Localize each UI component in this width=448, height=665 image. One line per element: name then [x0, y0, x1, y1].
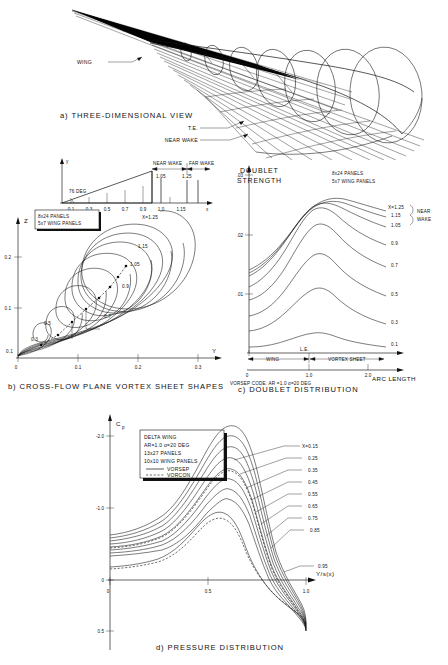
panel-b-caption: b) CROSS-FLOW PLANE VORTEX SHEET SHAPES: [8, 382, 224, 391]
panel-d-legend: DELTA WING AR=1.0 α=20 DEG 13x27 PANELS …: [140, 430, 227, 481]
inset-xtick-5: 1.0: [158, 207, 165, 212]
panel-d-pressure-distribution: C p Y/s(x) -2.0 -1.0 0 0.5 0 0.5 1.0 DEL…: [88, 400, 448, 665]
panel-a-label-trailing-edge: T.E.: [188, 125, 198, 131]
panel-d-curve-label-8: 0.95: [318, 564, 328, 569]
panel-a-label-wing: WING: [77, 59, 92, 65]
panel-c-curve-label-7: 0.1: [391, 342, 398, 347]
panel-d-curve-label-5: 0.65: [308, 504, 318, 509]
panel-b-xtick-2: 0.2: [135, 365, 142, 370]
panel-b-y-arrow: [16, 217, 20, 224]
panel-c-doublet-curves: [249, 198, 386, 347]
panel-c-x-arrow: [397, 351, 404, 355]
panel-d-legend-line4: 10x10 WING PANELS: [144, 458, 198, 464]
panel-b-xtick-0: 0: [15, 365, 18, 370]
panel-d-legend-line3: 13x27 PANELS: [144, 450, 182, 456]
panel-c-near-wake-brace: [410, 205, 413, 225]
inset-sweep-label: 76 DEG: [69, 189, 87, 194]
panel-b-axes: Z Y 0.1 0.2 0 0.1 0.2 0.3: [5, 217, 222, 370]
panel-d-ytick-2: 0: [101, 578, 104, 583]
inset-wake-value-105: 1.05: [156, 174, 166, 179]
panel-d-x-axis-label: Y/s(x): [316, 570, 335, 577]
panel-d-curve-label-4: 0.55: [308, 492, 318, 497]
panel-b-x-arrow: [215, 356, 222, 360]
panel-c-region-wing: WING: [266, 357, 280, 362]
panel-d-y-axis-sublabel: p: [122, 425, 125, 430]
panel-c-curve-label-2: 1.05: [391, 223, 401, 228]
panel-c-ytick-0: .03: [237, 173, 244, 178]
panel-d-curve-label-3: 0.45: [308, 480, 318, 485]
panel-c-curve-label-4: 0.7: [391, 263, 398, 268]
panel-d-legend-line2: AR=1.0 α=20 DEG: [144, 442, 190, 448]
panel-c-curve-label-3: 0.9: [391, 241, 398, 246]
panel-c-panels-note-line1: 8x24 PANELS: [332, 171, 363, 176]
inset-x-axis-label: x: [206, 207, 209, 212]
panel-d-curve-label-0: X=0.15: [302, 444, 318, 449]
panel-c-near-wake-line2: WAKE: [417, 217, 431, 222]
panel-b-xtick-1: 0.1: [75, 365, 82, 370]
panel-c-curve-label-5: 0.5: [391, 292, 398, 297]
panel-c-caption: c) DOUBLET DISTRIBUTION: [238, 385, 359, 394]
panel-b-xtick-3: 0.3: [195, 365, 202, 370]
panel-b-station-label-1: 1.15: [138, 244, 148, 249]
panel-d-caption: d) PRESSURE DISTRIBUTION: [156, 643, 284, 652]
inset-xtick-4: 0.9: [140, 207, 147, 212]
panel-b-station-label-6: 0.3: [31, 337, 38, 342]
panel-d-xtick-1: 0.5: [205, 589, 212, 594]
panel-b-station-label-4: 0.7: [104, 314, 111, 319]
panel-c-xtick-2: 2.0: [365, 373, 372, 378]
panel-d-x-arrow: [308, 578, 316, 583]
inset-y-axis-label: y: [66, 159, 69, 164]
panel-b-planform-inset: y x 76 DEG: [60, 158, 214, 212]
inset-y-arrow: [60, 158, 64, 164]
panel-a-three-dimensional-view: WING T.E. NEAR WAKE a) THREE-DIMENSIONAL…: [0, 0, 448, 160]
panel-a-label-near-wake: NEAR WAKE: [165, 137, 198, 143]
panel-d-ytick-0: -2.0: [96, 434, 104, 439]
panel-c-region-le: L.E.: [300, 347, 309, 352]
panel-c-y-title-line1: DOUBLET: [240, 167, 279, 174]
panel-b-panels-note-line1: 8x24 PANELS: [38, 214, 69, 219]
panel-b-panels-note-line2: 5x7 WING PANELS: [38, 221, 81, 226]
panel-b-station-label-2: 1.05: [130, 262, 140, 267]
inset-xtick-3: 0.7: [122, 207, 129, 212]
panel-c-curve-label-0: X=1.25: [388, 205, 404, 210]
panel-c-ytick-1: .02: [237, 233, 244, 238]
panel-d-legend-line1: DELTA WING: [144, 434, 177, 440]
panel-b-cross-flow-plane: y x 76 DEG: [0, 153, 240, 393]
panel-d-y-arrow: [108, 414, 112, 421]
panel-b-ytick-0: 0.1: [5, 306, 12, 311]
inset-near-wake-label: NEAR WAKE: [153, 161, 182, 166]
panel-d-legend-entry-dashed: VORCON: [167, 472, 191, 478]
panel-d-ytick-1: -1.0: [96, 506, 104, 511]
inset-x-arrow: [207, 201, 213, 205]
panel-b-ytick-1: 0.2: [5, 255, 12, 260]
panel-c-caption-wrap: c) DOUBLET DISTRIBUTION: [228, 381, 448, 397]
panel-d-curve-label-6: 0.75: [308, 516, 318, 521]
panel-b-station-label-5: 0.5: [44, 321, 51, 326]
panel-b-station-label-3: 0.9: [122, 284, 129, 289]
panel-b-x-axis-label: Y: [212, 347, 217, 354]
panel-b-station-label-0: X=1.25: [142, 215, 158, 220]
panel-c-xtick-0: 0: [246, 373, 249, 378]
panel-a-caption: a) THREE-DIMENSIONAL VIEW: [60, 111, 193, 120]
inset-far-wake-label: FAR WAKE: [189, 161, 214, 166]
panel-c-x-arrow-lower: [397, 368, 404, 372]
panel-d-curve-label-2: 0.35: [308, 468, 318, 473]
panel-c-curve-label-6: 0.3: [391, 320, 398, 325]
panel-d-xtick-0: 0: [107, 589, 110, 594]
figure-root: WING T.E. NEAR WAKE a) THREE-DIMENSIONAL…: [0, 0, 448, 665]
panel-b-y-axis-label: Z: [24, 217, 28, 224]
panel-d-curve-label-7: 0.85: [310, 528, 320, 533]
panel-d-curve-leaders: [234, 446, 314, 572]
panel-c-panels-note-line2: 5x7 WING PANELS: [332, 179, 375, 184]
panel-d-xtick-2: 1.0: [303, 589, 310, 594]
panel-c-y-title-line2: STRENGTH: [237, 177, 282, 184]
panel-b-panels-note: 8x24 PANELS 5x7 WING PANELS: [35, 210, 101, 231]
inset-wake-value-125: 1.25: [182, 174, 192, 179]
panel-c-ytick-2: .01: [237, 292, 244, 297]
panel-c-region-sheet: VORTEX SHEET: [328, 357, 366, 362]
panel-d-curve-label-1: 0.25: [308, 456, 318, 461]
panel-c-near-wake-line1: NEAR: [417, 209, 431, 214]
panel-d-y-axis-label: C: [116, 420, 121, 427]
panel-c-doublet-distribution: DOUBLET STRENGTH .03 .02 .01 8x24 PANELS…: [228, 153, 448, 388]
inset-xtick-2: 0.5: [104, 207, 111, 212]
